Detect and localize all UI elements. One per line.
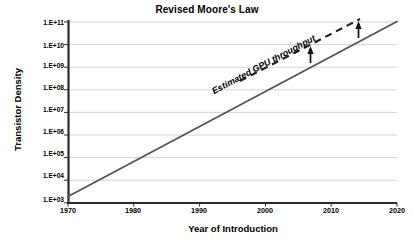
gpu-gap-arrow-2010 <box>307 46 313 63</box>
chart-container: Revised Moore's Law Transistor Density 1… <box>0 0 414 242</box>
moores-law-trend-line <box>68 22 397 197</box>
gpu-gap-arrow-2017 <box>355 21 361 38</box>
arrow-head-icon <box>307 46 313 54</box>
plot-area <box>0 0 414 242</box>
gridlines <box>68 22 397 180</box>
